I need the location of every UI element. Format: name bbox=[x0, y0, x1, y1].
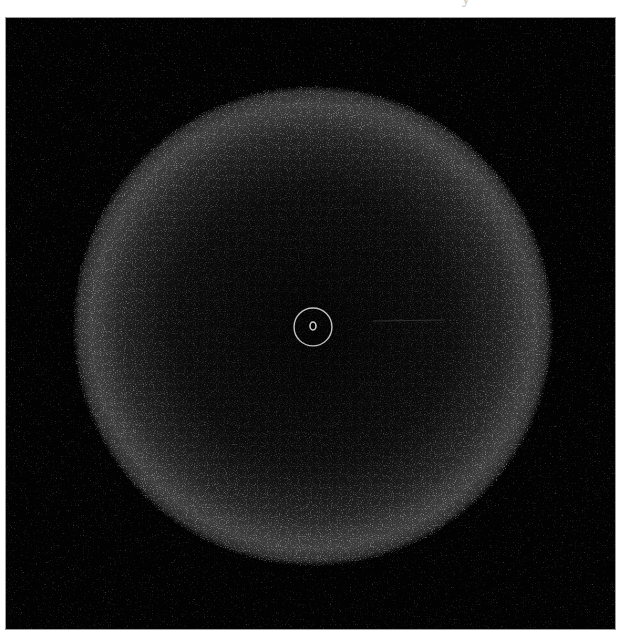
sky-image bbox=[6, 18, 615, 629]
clipped-header-text: y bbox=[462, 0, 471, 7]
page: y bbox=[0, 0, 626, 636]
astronomical-image-frame bbox=[5, 17, 616, 630]
